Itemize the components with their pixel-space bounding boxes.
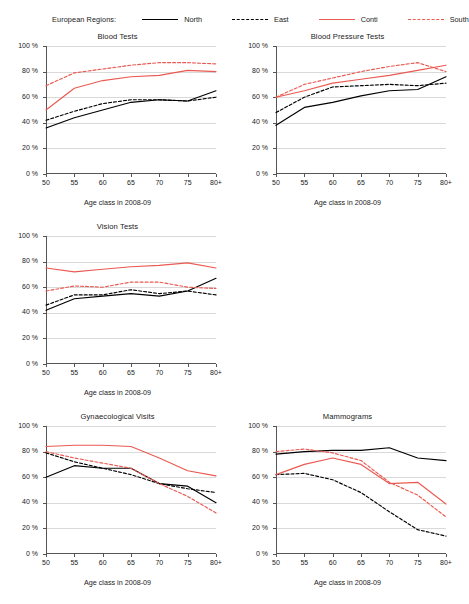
series-line-north <box>46 278 216 310</box>
panel-title: Gynaecological Visits <box>2 412 233 421</box>
x-tick-mark <box>46 364 47 367</box>
x-tick-label: 50 <box>42 179 50 186</box>
y-tick-label: 60 % <box>238 473 268 480</box>
x-tick-label: 80+ <box>210 369 222 376</box>
x-tick-mark <box>131 554 132 557</box>
x-tick-label: 60 <box>99 179 107 186</box>
legend-swatch-east-icon <box>232 15 268 23</box>
x-axis-title: Age class in 2008-09 <box>2 198 233 207</box>
y-tick-label: 80 % <box>238 447 268 454</box>
legend-label-south: South <box>450 15 469 24</box>
y-tick-label: 20 % <box>8 334 38 341</box>
series-line-conti <box>46 263 216 272</box>
x-tick-mark <box>131 364 132 367</box>
x-tick-label: 60 <box>99 369 107 376</box>
series-line-north <box>46 91 216 128</box>
x-tick-label: 70 <box>385 179 393 186</box>
x-tick-mark <box>418 174 419 177</box>
x-tick-mark <box>74 174 75 177</box>
x-tick-label: 75 <box>414 559 422 566</box>
chart-panel-2: Blood Pressure Tests0 %20 %40 %60 %80 %1… <box>232 30 463 220</box>
x-tick-mark <box>389 174 390 177</box>
x-tick-label: 65 <box>127 369 135 376</box>
x-tick-label: 75 <box>184 179 192 186</box>
legend-swatch-north-icon <box>142 15 178 23</box>
x-tick-label: 50 <box>42 369 50 376</box>
y-tick-label: 100 % <box>238 422 268 429</box>
y-tick-label: 20 % <box>8 524 38 531</box>
y-tick-label: 20 % <box>8 144 38 151</box>
x-tick-label: 55 <box>70 179 78 186</box>
y-tick-label: 100 % <box>8 232 38 239</box>
x-tick-mark <box>103 174 104 177</box>
x-tick-label: 55 <box>300 559 308 566</box>
x-tick-mark <box>159 174 160 177</box>
x-tick-mark <box>304 554 305 557</box>
series-layer <box>276 426 446 554</box>
legend-swatch-conti-icon <box>319 15 355 23</box>
x-tick-mark <box>276 554 277 557</box>
x-tick-mark <box>74 554 75 557</box>
y-tick-label: 60 % <box>8 283 38 290</box>
chart-legend: European Regions: North East Conti South <box>0 8 463 30</box>
plot-area: 0 %20 %40 %60 %80 %100 %50556065707580+ <box>276 46 446 174</box>
legend-label-north: North <box>184 15 202 24</box>
y-tick-label: 0 % <box>8 360 38 367</box>
y-tick-label: 60 % <box>238 93 268 100</box>
x-tick-label: 70 <box>155 559 163 566</box>
chart-panel-3: Vision Tests0 %20 %40 %60 %80 %100 %5055… <box>2 220 233 410</box>
legend-label-east: East <box>274 15 289 24</box>
chart-panel-5: Mammograms0 %20 %40 %60 %80 %100 %505560… <box>232 410 463 600</box>
y-tick-label: 80 % <box>8 447 38 454</box>
x-tick-mark <box>74 364 75 367</box>
x-axis-title: Age class in 2008-09 <box>2 388 233 397</box>
x-tick-mark <box>188 364 189 367</box>
x-tick-mark <box>216 554 217 557</box>
x-tick-mark <box>216 364 217 367</box>
y-tick-label: 20 % <box>238 144 268 151</box>
series-layer <box>276 46 446 174</box>
x-axis-title: Age class in 2008-09 <box>2 578 233 587</box>
x-tick-mark <box>361 174 362 177</box>
series-layer <box>46 46 216 174</box>
x-tick-mark <box>188 174 189 177</box>
x-tick-mark <box>389 554 390 557</box>
x-tick-label: 55 <box>300 179 308 186</box>
x-tick-mark <box>276 174 277 177</box>
x-tick-label: 80+ <box>440 559 452 566</box>
series-layer <box>46 426 216 554</box>
legend-items: North East Conti South <box>142 15 469 24</box>
legend-label-conti: Conti <box>361 15 378 24</box>
x-tick-label: 60 <box>329 179 337 186</box>
y-tick-label: 40 % <box>238 118 268 125</box>
y-tick-label: 100 % <box>238 42 268 49</box>
x-tick-mark <box>216 174 217 177</box>
plot-area: 0 %20 %40 %60 %80 %100 %50556065707580+ <box>276 426 446 554</box>
x-tick-label: 70 <box>155 369 163 376</box>
y-tick-label: 100 % <box>8 42 38 49</box>
series-line-east <box>46 453 216 493</box>
plot-area: 0 %20 %40 %60 %80 %100 %50556065707580+ <box>46 236 216 364</box>
legend-item-conti: Conti <box>319 15 378 24</box>
x-tick-label: 80+ <box>210 559 222 566</box>
chart-panel-1: Blood Tests0 %20 %40 %60 %80 %100 %50556… <box>2 30 233 220</box>
panel-title: Vision Tests <box>2 222 233 231</box>
x-tick-label: 55 <box>70 559 78 566</box>
x-tick-mark <box>188 554 189 557</box>
x-tick-label: 60 <box>329 559 337 566</box>
x-tick-mark <box>103 364 104 367</box>
y-tick-label: 40 % <box>8 118 38 125</box>
x-tick-mark <box>446 174 447 177</box>
y-tick-label: 40 % <box>8 308 38 315</box>
x-tick-label: 80+ <box>440 179 452 186</box>
x-tick-label: 80+ <box>210 179 222 186</box>
y-tick-label: 20 % <box>238 524 268 531</box>
x-axis-title: Age class in 2008-09 <box>232 198 463 207</box>
y-tick-label: 40 % <box>238 498 268 505</box>
x-tick-label: 75 <box>184 559 192 566</box>
y-tick-label: 40 % <box>8 498 38 505</box>
x-tick-mark <box>159 554 160 557</box>
series-line-conti <box>276 65 446 97</box>
x-tick-mark <box>333 554 334 557</box>
